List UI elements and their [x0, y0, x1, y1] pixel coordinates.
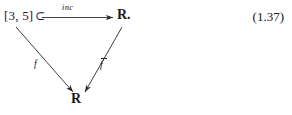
equation-figure: [3, 5] ⊂ R. R inc f f (1.37) [0, 0, 292, 115]
edge-label-f-bar: f [100, 58, 107, 70]
edge-label-f: f [34, 59, 37, 69]
edge-label-inc: inc [62, 3, 73, 12]
diagram-arrows [0, 0, 292, 115]
edge-label-f-bar-text: f [100, 59, 103, 70]
equation-number: (1.37) [253, 9, 284, 25]
arrow-f [16, 27, 73, 92]
